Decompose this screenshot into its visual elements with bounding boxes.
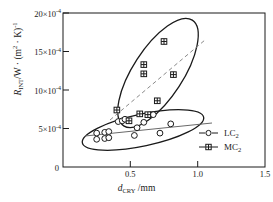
data-point-square xyxy=(154,98,160,104)
y-axis-label: RINT/W · (m2 · K)-1 xyxy=(13,0,23,129)
data-point-circle xyxy=(106,129,112,135)
mc2-data-points xyxy=(114,39,176,124)
x-tick-10: 1.0 xyxy=(192,169,203,179)
data-point-circle xyxy=(168,121,174,127)
mc2-trend-line xyxy=(110,40,205,120)
data-point-square xyxy=(126,118,132,124)
scatter-plot-svg: 0 20×10-4 15×10-4 10×10-4 5×10-4 0.5 1.0… xyxy=(0,0,273,202)
legend-marker-mc2 xyxy=(199,144,218,149)
svg-text:15×10-4: 15×10-4 xyxy=(34,47,61,58)
data-point-circle xyxy=(106,135,112,141)
data-point-circle xyxy=(134,125,140,131)
x-tick-05: 0.5 xyxy=(125,169,136,179)
data-point-square xyxy=(141,71,147,77)
legend-label-mc2: MC2 xyxy=(224,142,241,153)
data-point-circle xyxy=(141,119,147,125)
legend-marker-lc2 xyxy=(199,130,218,135)
y-tick-labels: 0 xyxy=(55,163,59,173)
data-point-square xyxy=(141,62,147,68)
legend-label-lc2: LC2 xyxy=(224,128,239,139)
data-point-square xyxy=(137,111,143,117)
data-point-circle xyxy=(94,130,100,136)
data-point-square xyxy=(145,112,151,118)
svg-text:10×10-4: 10×10-4 xyxy=(34,85,61,96)
data-point-square xyxy=(114,107,120,113)
y-tick-labels-sci: 20×10-4 15×10-4 10×10-4 5×10-4 xyxy=(34,8,61,134)
x-axis-ticks xyxy=(130,161,197,167)
data-point-square xyxy=(161,39,167,45)
svg-text:5×10-4: 5×10-4 xyxy=(38,124,61,135)
data-point-circle xyxy=(94,136,100,142)
chart-legend: LC2 MC2 xyxy=(199,128,241,153)
data-point-circle xyxy=(150,112,156,118)
y-axis-ticks xyxy=(63,13,69,129)
svg-text:20×10-4: 20×10-4 xyxy=(34,8,61,19)
data-point-circle xyxy=(131,133,137,139)
data-point-circle xyxy=(157,130,163,136)
chart-figure: 0 20×10-4 15×10-4 10×10-4 5×10-4 0.5 1.0… xyxy=(0,0,273,202)
x-tick-15: 1.5 xyxy=(260,169,271,179)
y-tick-0: 0 xyxy=(55,163,59,173)
x-axis-label: dCRY /mm xyxy=(0,183,273,193)
data-point-square xyxy=(171,72,177,78)
x-tick-labels: 0.5 1.0 1.5 xyxy=(125,169,270,179)
